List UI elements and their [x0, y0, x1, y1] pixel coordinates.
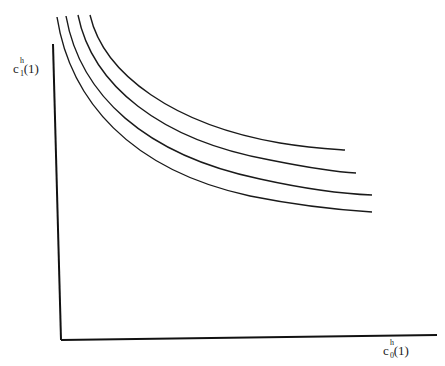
x-axis-label-sub: 0 [390, 352, 394, 360]
x-axis-label: ch0(1) [383, 344, 409, 357]
x-axis-label-base: c [383, 343, 389, 358]
indifference-curve-4 [90, 15, 345, 150]
indifference-curve-3 [78, 15, 356, 173]
y-axis-label-arg: (1) [24, 61, 39, 76]
y-axis [53, 44, 61, 340]
x-axis-label-arg: (1) [394, 343, 409, 358]
y-axis-label-sup: h [20, 57, 24, 65]
indifference-curve-2 [66, 16, 372, 195]
indifference-curve-diagram [0, 0, 445, 366]
x-axis-label-sup: h [390, 339, 394, 347]
indifference-curve-1 [57, 17, 372, 212]
y-axis-label-sub: 1 [20, 70, 24, 78]
y-axis-label-base: c [13, 61, 19, 76]
x-axis [61, 335, 437, 340]
y-axis-label: ch1(1) [13, 62, 39, 75]
